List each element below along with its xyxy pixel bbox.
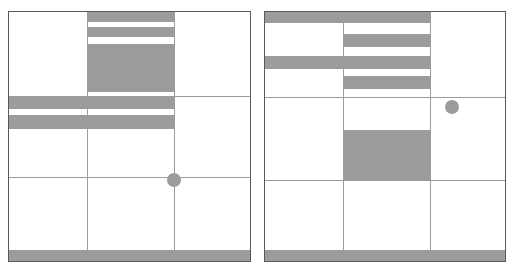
band-3 <box>265 56 430 69</box>
grid-line-vertical-1 <box>343 12 344 261</box>
band-4 <box>9 96 175 109</box>
grid-line-vertical-2 <box>174 12 175 261</box>
band-1 <box>87 11 175 22</box>
right-panel <box>264 11 506 262</box>
grid-line-vertical-1 <box>87 12 88 261</box>
band-1 <box>265 11 430 23</box>
grid-line-horizontal-2 <box>265 180 505 181</box>
band-6 <box>265 250 505 262</box>
grid-line-horizontal-1 <box>265 97 505 98</box>
band-3 <box>87 44 175 92</box>
band-6 <box>9 250 250 262</box>
band-5 <box>343 130 430 180</box>
grid-line-horizontal-2 <box>9 177 250 178</box>
circle-marker <box>445 100 459 114</box>
grid-line-vertical-2 <box>430 12 431 261</box>
band-4 <box>343 76 430 89</box>
band-2 <box>343 34 430 47</box>
grid-line-horizontal-1 <box>9 96 250 97</box>
band-2 <box>87 27 175 37</box>
left-panel <box>8 11 251 262</box>
circle-marker <box>167 173 181 187</box>
band-5 <box>9 115 175 129</box>
figure-canvas <box>0 0 513 272</box>
